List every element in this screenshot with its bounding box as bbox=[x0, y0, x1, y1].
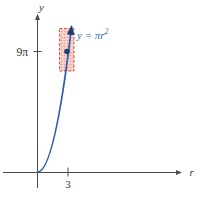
y-tick-label-9pi: 9π bbox=[16, 46, 28, 58]
x-tick-label-3: 3 bbox=[65, 178, 71, 190]
equation-exponent: 2 bbox=[105, 27, 109, 36]
plot-canvas: y r 9π 3 y = πr2 bbox=[0, 0, 208, 198]
equation-base: y = πr bbox=[76, 29, 105, 41]
point-3-9pi bbox=[64, 49, 70, 55]
y-axis-label: y bbox=[38, 1, 44, 13]
function-plot-figure: y r 9π 3 y = πr2 bbox=[0, 0, 208, 198]
equation-annotation: y = πr2 bbox=[76, 27, 109, 41]
x-axis-label: r bbox=[190, 166, 195, 178]
